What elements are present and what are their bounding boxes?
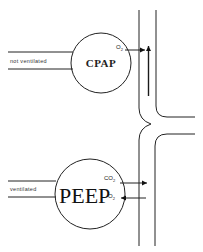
top-o2-label: O2 (116, 44, 124, 52)
vessel-right-wall-upper (156, 10, 195, 117)
vessel-left-wall (139, 10, 151, 246)
peep-label: PEEP (59, 183, 110, 208)
ventilated-label: ventilated (10, 186, 37, 192)
bottom-co2-label: CO2 (104, 175, 116, 183)
diagram-canvas: not ventilated CPAP O2 ventilated PEEP C… (0, 0, 203, 252)
not-ventilated-label: not ventilated (10, 58, 47, 64)
vessel-right-wall-lower (155, 134, 195, 246)
cpap-label: CPAP (86, 57, 117, 69)
